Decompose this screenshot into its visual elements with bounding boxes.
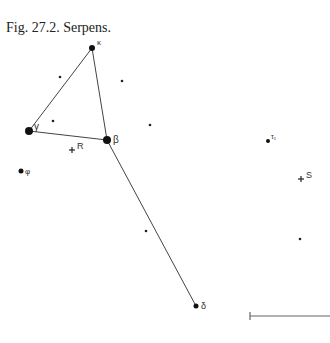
star-tau1 (266, 139, 270, 143)
star-beta (103, 136, 111, 144)
minor-star (299, 238, 302, 241)
constellation-line (29, 48, 92, 131)
star-label-delta: δ (201, 301, 206, 311)
star-kappa (89, 45, 95, 51)
constellation-line (92, 48, 107, 140)
minor-star (121, 80, 124, 83)
star-gamma (25, 127, 33, 135)
constellation-diagram: κγβφτ₁δRS (0, 0, 330, 343)
variable-label-R: R (77, 141, 84, 151)
star-label-gamma: γ (34, 121, 39, 132)
star-label-tau1: τ₁ (271, 133, 277, 140)
star-label-phi: φ (25, 167, 30, 176)
star-delta (194, 304, 199, 309)
minor-star (52, 120, 55, 123)
variable-label-S: S (306, 170, 312, 180)
constellation-line (107, 140, 196, 306)
minor-star (145, 230, 148, 233)
star-label-beta: β (113, 134, 119, 145)
constellation-line (29, 131, 107, 140)
minor-star (59, 76, 62, 79)
star-phi (19, 169, 24, 174)
minor-star (149, 124, 152, 127)
star-label-kappa: κ (97, 38, 102, 47)
